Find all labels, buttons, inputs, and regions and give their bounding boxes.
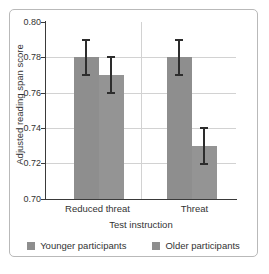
y-tick-label-5: 0.70 [3, 195, 41, 204]
x-axis-title: Test instruction [46, 219, 236, 230]
legend-item-older: Older participants [152, 240, 239, 251]
legend-swatch-icon-younger [27, 242, 35, 250]
errorbar-cap-top-reduced-threat-younger [82, 39, 90, 41]
errorbar-cap-top-threat-younger [175, 39, 183, 41]
bar-reduced-threat-younger [74, 57, 99, 199]
errorbar-cap-bottom-reduced-threat-younger [82, 74, 90, 76]
legend-item-younger: Younger participants [27, 240, 126, 251]
x-tick-label-reduced-threat: Reduced threat [55, 203, 140, 214]
errorbar-cap-top-reduced-threat-older [107, 56, 115, 58]
errorbar-cap-top-threat-older [200, 127, 208, 129]
errorbar-reduced-threat-younger [85, 40, 87, 76]
errorbar-cap-bottom-reduced-threat-older [107, 92, 115, 94]
x-tick-label-threat: Threat [152, 203, 237, 214]
chart-figure: 0.80 0.78 0.76 0.74 0.72 0.70 [0, 0, 269, 274]
group-separator [141, 22, 142, 199]
x-axis-line [45, 199, 237, 200]
y-axis-title: Adjusted reading span score [14, 15, 25, 195]
plot-area [46, 22, 236, 199]
legend-swatch-icon-older [152, 242, 160, 250]
bar-threat-younger [167, 57, 192, 199]
legend-label-older: Older participants [165, 240, 239, 251]
errorbar-threat-younger [178, 40, 180, 76]
chart-legend: Younger participants Older participants [10, 240, 257, 251]
errorbar-cap-bottom-threat-older [200, 163, 208, 165]
errorbar-reduced-threat-older [110, 57, 112, 93]
errorbar-threat-older [203, 128, 205, 164]
y-axis-line [45, 21, 46, 200]
errorbar-cap-bottom-threat-younger [175, 74, 183, 76]
legend-label-younger: Younger participants [40, 240, 126, 251]
